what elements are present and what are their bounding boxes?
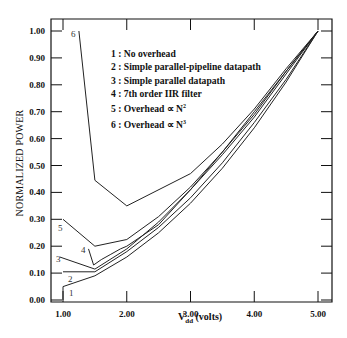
legend-item-5: 5 : Overhead ∝ N2	[111, 100, 261, 115]
series-label-1: 1	[69, 288, 74, 298]
legend-item-4: 4 : 7th order IIR filter	[111, 87, 261, 100]
x-axis-label-unit: (volts)	[193, 311, 222, 322]
x-axis-label-sub: dd	[185, 317, 193, 325]
series-label-3: 3	[56, 254, 61, 264]
y-tick-label: 0.60	[29, 134, 45, 144]
y-tick-label: 0.80	[29, 80, 45, 90]
y-tick-label: 0.20	[29, 241, 45, 251]
x-tick-label: 4.00	[246, 309, 262, 319]
y-tick-label: 0.10	[29, 268, 45, 278]
x-tick-label: 1.00	[55, 309, 71, 319]
y-tick-label: 0.40	[29, 187, 45, 197]
y-tick-label: 0.90	[29, 53, 45, 63]
y-tick-label: 0.70	[29, 107, 45, 117]
series-label-5: 5	[58, 223, 63, 233]
series-label-4: 4	[81, 245, 86, 255]
legend-item-2: 2 : Simple parallel-pipeline datapath	[111, 60, 261, 73]
legend-item-6: 6 : Overhead ∝ N3	[111, 116, 261, 131]
series-label-6: 6	[71, 29, 76, 39]
y-tick-label: 0.00	[29, 295, 45, 305]
y-tick-label: 0.30	[29, 214, 45, 224]
legend-item-3: 3 : Simple parallel datapath	[111, 74, 261, 87]
y-tick-label: 0.50	[29, 161, 45, 171]
series-label-2: 2	[68, 274, 73, 284]
legend: 1 : No overhead 2 : Simple parallel-pipe…	[111, 47, 261, 131]
y-axis-label: NORMALIZED POWER	[14, 110, 25, 217]
x-tick-label: 2.00	[119, 309, 135, 319]
x-axis-label: Vdd (volts)	[178, 311, 222, 325]
legend-item-1: 1 : No overhead	[111, 47, 261, 60]
x-tick-label: 5.00	[310, 309, 326, 319]
y-tick-label: 1.00	[29, 26, 45, 36]
